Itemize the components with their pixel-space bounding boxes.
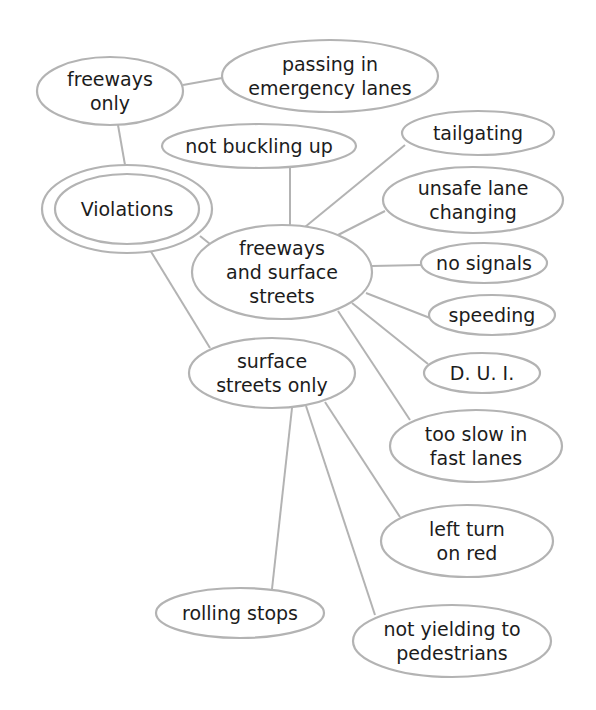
edge-surface-only-to-not-yielding: [306, 406, 375, 615]
node-label: emergency lanes: [248, 77, 411, 99]
node-label: too slow in: [425, 423, 527, 445]
node-ellipse: [381, 505, 553, 577]
node-label: D. U. I.: [450, 362, 514, 384]
node-label: freeways: [239, 237, 325, 259]
node-too-slow: too slow infast lanes: [390, 410, 562, 482]
edge-freeways-only-to-passing-emergency: [183, 78, 222, 85]
edge-violations-to-freeways-only: [118, 125, 125, 165]
node-label: freeways: [67, 68, 153, 90]
node-label: on red: [437, 542, 498, 564]
node-ellipse: [353, 605, 551, 677]
node-label: not buckling up: [185, 135, 333, 157]
node-label: no signals: [436, 252, 532, 274]
edge-freeways-surface-to-speeding: [366, 293, 430, 318]
node-label: tailgating: [433, 122, 523, 144]
concept-map-canvas: Violationsfreewaysonlypassing inemergenc…: [0, 0, 596, 710]
node-not-buckling: not buckling up: [162, 124, 356, 168]
node-label: not yielding to: [383, 618, 520, 640]
node-label: changing: [429, 201, 517, 223]
edge-freeways-surface-to-unsafe-lane: [338, 211, 385, 235]
node-dui: D. U. I.: [424, 353, 540, 393]
node-label: fast lanes: [430, 447, 522, 469]
node-label: passing in: [282, 53, 378, 75]
nodes-layer: Violationsfreewaysonlypassing inemergenc…: [37, 40, 563, 677]
node-label: surface: [237, 350, 307, 372]
node-label: unsafe lane: [418, 177, 529, 199]
node-label: Violations: [81, 198, 174, 220]
node-label: pedestrians: [396, 642, 508, 664]
node-label: streets only: [216, 374, 328, 396]
node-speeding: speeding: [429, 295, 555, 335]
edge-freeways-surface-to-no-signals: [372, 265, 421, 266]
node-violations: Violations: [42, 165, 212, 253]
node-label: streets: [249, 285, 314, 307]
node-unsafe-lane: unsafe lanechanging: [383, 167, 563, 233]
node-left-turn: left turnon red: [381, 505, 553, 577]
node-no-signals: no signals: [421, 243, 547, 283]
node-label: and surface: [226, 261, 338, 283]
node-rolling-stops: rolling stops: [156, 588, 324, 638]
node-passing-emergency: passing inemergency lanes: [222, 40, 438, 112]
node-label: left turn: [429, 518, 505, 540]
node-not-yielding: not yielding topedestrians: [353, 605, 551, 677]
node-freeways-surface: freewaysand surfacestreets: [192, 225, 372, 319]
node-label: only: [90, 92, 130, 114]
node-ellipse: [222, 40, 438, 112]
node-freeways-only: freewaysonly: [37, 57, 183, 125]
node-ellipse: [390, 410, 562, 482]
node-ellipse: [189, 338, 355, 408]
node-tailgating: tailgating: [402, 111, 554, 155]
node-surface-only: surfacestreets only: [189, 338, 355, 408]
node-label: speeding: [449, 304, 536, 326]
node-label: rolling stops: [182, 602, 298, 624]
edge-surface-only-to-rolling-stops: [272, 408, 292, 589]
